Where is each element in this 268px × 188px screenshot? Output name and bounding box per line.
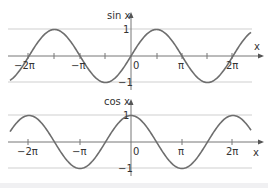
cos-xtick-negpi: −π: [72, 146, 86, 157]
sin-xtick-neg2pi: −2π: [14, 60, 35, 71]
sin-title: sin x: [107, 10, 131, 21]
cos-xtick-neg2pi: −2π: [17, 146, 38, 157]
cos-chart: cos x x 1 −1 0 −2π −π π 2π: [8, 96, 264, 176]
cos-x-axis-arrow-icon: [258, 140, 264, 145]
sin-chart: sin x x 1 −1 0 −2π −π π 2π: [8, 10, 264, 90]
cos-xtick-2pi: 2π: [226, 146, 238, 157]
sin-xtick-2pi: 2π: [226, 60, 238, 71]
trig-graphs: sin x x 1 −1 0 −2π −π π 2π cos x x 1 −1 …: [0, 0, 268, 188]
cos-title: cos x: [104, 96, 130, 107]
cos-ytick-1: 1: [123, 110, 129, 121]
bottom-strip: [0, 183, 268, 188]
sin-xtick-0: 0: [133, 60, 139, 71]
sin-ytick-neg1: −1: [118, 77, 133, 88]
sin-xtick-pi: π: [178, 60, 184, 71]
sin-x-label: x: [254, 41, 260, 52]
sin-xtick-negpi: −π: [71, 60, 85, 71]
cos-x-label: x: [253, 147, 259, 158]
cos-xtick-pi: π: [178, 146, 184, 157]
cos-xtick-0: 0: [133, 146, 139, 157]
cos-ytick-neg1: −1: [118, 163, 133, 174]
sin-ytick-1: 1: [123, 24, 129, 35]
sin-x-axis-arrow-icon: [258, 54, 264, 59]
